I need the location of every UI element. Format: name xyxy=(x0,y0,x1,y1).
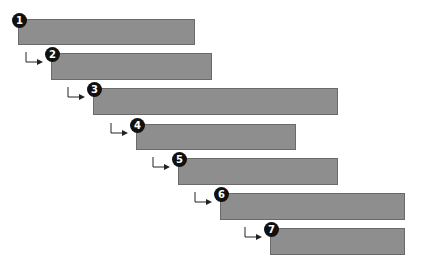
step-arrow-icon xyxy=(151,155,191,175)
step-number-badge: 1 xyxy=(12,13,27,28)
step-arrow-icon xyxy=(24,50,64,70)
step-bar-1 xyxy=(18,19,195,45)
step-arrow-icon xyxy=(109,121,149,141)
step-bar-7 xyxy=(270,228,405,255)
step-arrow-icon xyxy=(193,190,233,210)
step-bar-4 xyxy=(136,124,296,150)
step-bar-6 xyxy=(220,193,405,220)
step-arrow-icon xyxy=(243,225,283,245)
step-bar-3 xyxy=(93,88,338,115)
step-arrow-icon xyxy=(66,85,106,105)
step-bar-2 xyxy=(51,53,212,80)
step-bar-5 xyxy=(178,158,338,185)
